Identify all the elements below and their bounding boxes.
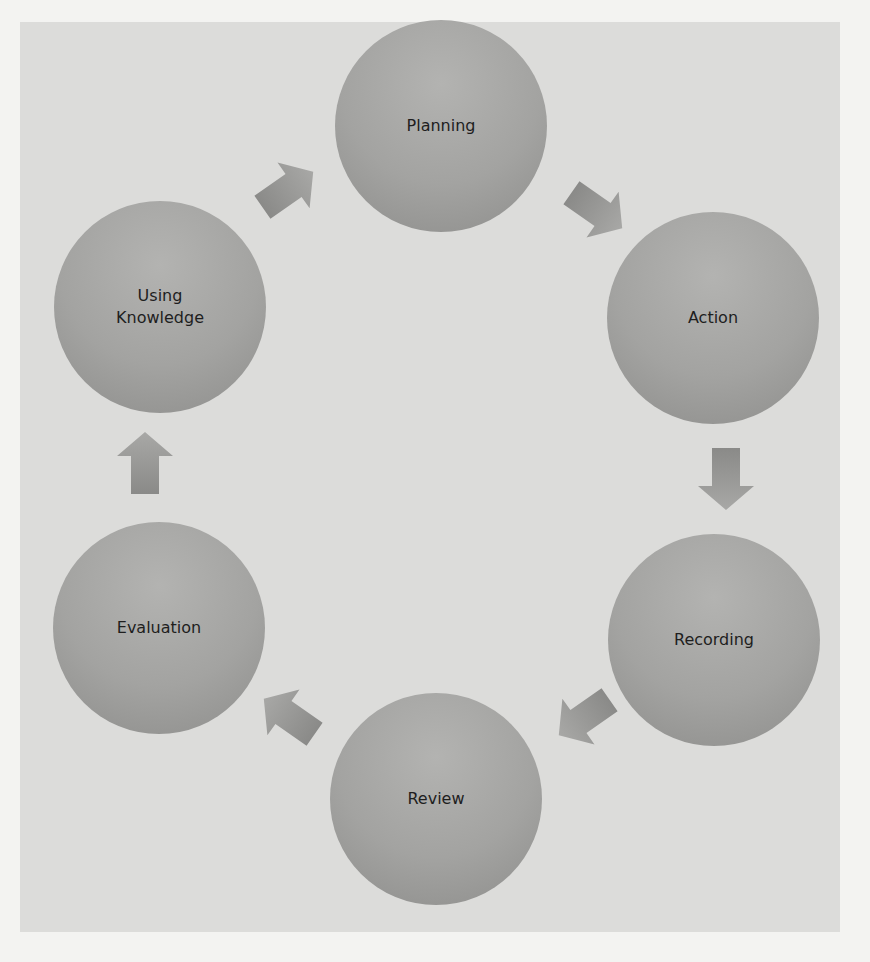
arrow-using-knowledge-to-planning-icon — [246, 149, 329, 230]
arrow-recording-to-review-icon — [543, 677, 626, 758]
arrow-planning-to-action-icon — [555, 170, 638, 251]
arrows-layer — [0, 0, 870, 962]
arrow-review-to-evaluation-icon — [248, 676, 331, 757]
arrow-evaluation-to-using-knowledge-icon — [117, 432, 173, 494]
arrow-action-to-recording-icon — [698, 448, 754, 510]
